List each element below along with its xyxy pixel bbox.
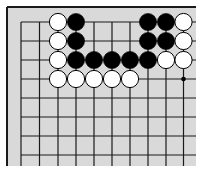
- white-stone: [175, 13, 192, 30]
- board-grid: [7, 7, 196, 166]
- black-stone: [139, 32, 156, 49]
- black-stone: [67, 51, 84, 68]
- black-stone: [139, 13, 156, 30]
- white-stone: [49, 32, 66, 49]
- black-stone: [157, 13, 174, 30]
- white-stone: [67, 70, 84, 87]
- black-stone: [85, 51, 102, 68]
- white-stone: [49, 51, 66, 68]
- white-stone: [157, 51, 174, 68]
- board-background: [7, 7, 196, 166]
- black-stone: [139, 51, 156, 68]
- white-stone: [175, 51, 192, 68]
- black-stone: [157, 32, 174, 49]
- white-stone: [175, 32, 192, 49]
- black-stone: [103, 51, 120, 68]
- go-board[interactable]: [0, 0, 200, 176]
- white-stone: [121, 70, 138, 87]
- black-stone: [121, 51, 138, 68]
- white-stone: [49, 13, 66, 30]
- black-stone: [67, 32, 84, 49]
- black-stone: [67, 13, 84, 30]
- white-stone: [49, 70, 66, 87]
- star-points: [181, 77, 186, 82]
- white-stone: [85, 70, 102, 87]
- white-stone: [103, 70, 120, 87]
- star-point: [181, 77, 186, 82]
